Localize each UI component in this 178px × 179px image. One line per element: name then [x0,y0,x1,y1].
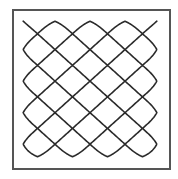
curve-path [23,21,157,157]
lissajous-curve [0,0,178,179]
